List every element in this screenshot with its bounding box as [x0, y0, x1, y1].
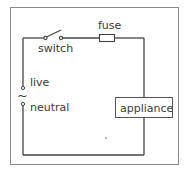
live-label: live — [30, 76, 50, 89]
circuit-wires — [23, 38, 144, 155]
circuit-diagram: switch fuse ~ live neutral appliance — [0, 0, 188, 173]
fuse-symbol — [100, 35, 115, 42]
appliance-label: appliance — [120, 102, 174, 115]
stray-dot — [181, 159, 182, 160]
switch-symbol — [44, 30, 63, 40]
ac-symbol: ~ — [17, 88, 28, 103]
stray-dot — [105, 137, 107, 139]
fuse-label: fuse — [98, 19, 122, 32]
neutral-label: neutral — [30, 101, 69, 114]
switch-label: switch — [38, 42, 73, 55]
